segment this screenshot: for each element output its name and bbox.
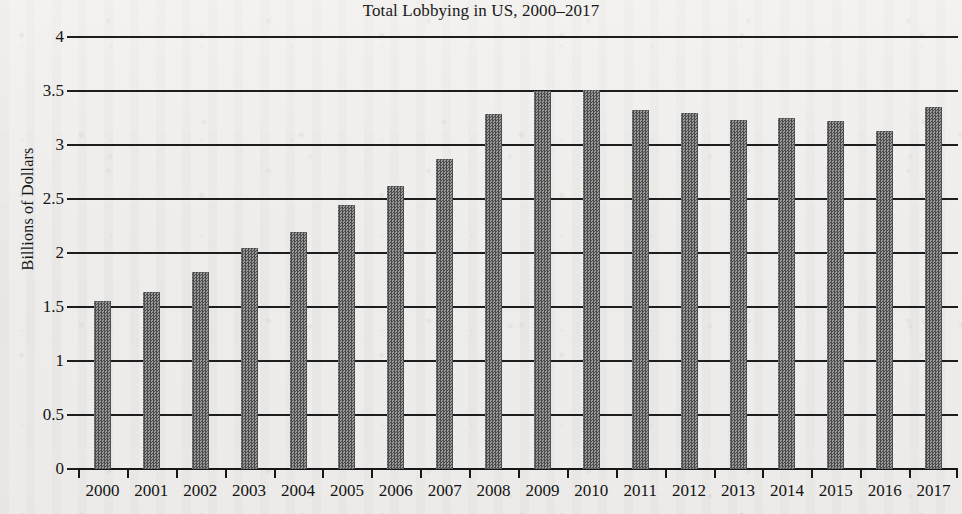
x-axis-tick xyxy=(225,469,227,478)
x-axis-label-2006: 2006 xyxy=(379,481,413,501)
x-axis-tick xyxy=(420,469,422,478)
x-axis-end-tick xyxy=(956,469,958,478)
x-axis-label-2001: 2001 xyxy=(134,481,168,501)
y-tick-mark xyxy=(67,414,78,416)
y-tick-mark xyxy=(67,360,78,362)
bar-2006 xyxy=(387,186,404,469)
plot-area: 43.532.521.510.50 2000200120022003200420… xyxy=(78,37,958,469)
x-axis-tick xyxy=(909,469,911,478)
bar-2007 xyxy=(436,159,453,469)
bar-2016 xyxy=(876,131,893,469)
x-axis-label-2009: 2009 xyxy=(525,481,559,501)
bar-2005 xyxy=(338,205,355,469)
gridline-3 xyxy=(78,144,958,146)
y-tick-mark xyxy=(67,36,78,38)
bar-2002 xyxy=(192,272,209,469)
y-axis-tick-label: 2.5 xyxy=(43,189,64,209)
bar-2000 xyxy=(94,301,111,469)
gridline-3.5 xyxy=(78,90,958,92)
chart-page: Total Lobbying in US, 2000–2017 Billions… xyxy=(0,0,962,514)
x-axis-label-2015: 2015 xyxy=(819,481,853,501)
x-axis-tick xyxy=(518,469,520,478)
bar-2008 xyxy=(485,114,502,469)
y-axis-tick-label: 0.5 xyxy=(43,405,64,425)
y-tick-mark xyxy=(67,144,78,146)
x-axis-tick xyxy=(127,469,129,478)
x-axis-label-2017: 2017 xyxy=(917,481,951,501)
chart-title: Total Lobbying in US, 2000–2017 xyxy=(0,1,962,21)
x-axis-label-2010: 2010 xyxy=(574,481,608,501)
x-axis-tick xyxy=(176,469,178,478)
gridline-1 xyxy=(78,360,958,362)
x-axis-tick xyxy=(860,469,862,478)
gridline-4 xyxy=(78,36,958,38)
bar-2011 xyxy=(632,110,649,469)
bar-2003 xyxy=(241,248,258,469)
x-axis-tick xyxy=(714,469,716,478)
bar-2001 xyxy=(143,292,160,469)
y-tick-mark xyxy=(67,468,78,470)
bar-2009 xyxy=(534,91,551,469)
y-tick-mark xyxy=(67,198,78,200)
x-axis-tick xyxy=(567,469,569,478)
x-axis-label-2000: 2000 xyxy=(85,481,119,501)
x-axis-label-2011: 2011 xyxy=(624,481,657,501)
x-axis-tick xyxy=(322,469,324,478)
gridline-0.5 xyxy=(78,414,958,416)
x-axis-label-2016: 2016 xyxy=(868,481,902,501)
x-axis-label-2013: 2013 xyxy=(721,481,755,501)
bar-2004 xyxy=(290,232,307,469)
x-axis-tick xyxy=(274,469,276,478)
x-axis-start-tick xyxy=(78,469,80,478)
x-axis-label-2012: 2012 xyxy=(672,481,706,501)
gridline-2.5 xyxy=(78,198,958,200)
bar-2015 xyxy=(827,121,844,469)
x-axis-tick xyxy=(811,469,813,478)
y-axis-tick-label: 4 xyxy=(56,27,65,47)
gridline-1.5 xyxy=(78,306,958,308)
y-axis-tick-label: 1.5 xyxy=(43,297,64,317)
x-axis-tick xyxy=(616,469,618,478)
x-axis-label-2003: 2003 xyxy=(232,481,266,501)
y-tick-mark xyxy=(67,306,78,308)
x-axis-label-2014: 2014 xyxy=(770,481,804,501)
x-axis-tick xyxy=(762,469,764,478)
y-axis-tick-label: 2 xyxy=(56,243,65,263)
y-axis-tick-label: 0 xyxy=(56,459,65,479)
y-axis-tick-label: 3.5 xyxy=(43,81,64,101)
x-axis-tick xyxy=(371,469,373,478)
bar-2017 xyxy=(925,107,942,469)
x-axis-label-2004: 2004 xyxy=(281,481,315,501)
y-axis-tick-label: 3 xyxy=(56,135,65,155)
bar-2012 xyxy=(681,113,698,469)
x-axis-tick xyxy=(665,469,667,478)
x-axis-tick xyxy=(469,469,471,478)
y-axis-tick-label: 1 xyxy=(56,351,65,371)
x-axis-label-2005: 2005 xyxy=(330,481,364,501)
bar-2013 xyxy=(730,120,747,469)
x-axis-label-2008: 2008 xyxy=(477,481,511,501)
bar-2014 xyxy=(778,118,795,469)
x-axis-label-2007: 2007 xyxy=(428,481,462,501)
y-tick-mark xyxy=(67,252,78,254)
bar-2010 xyxy=(583,90,600,469)
y-axis-title: Billions of Dollars xyxy=(19,119,37,299)
gridline-2 xyxy=(78,252,958,254)
y-tick-mark xyxy=(67,90,78,92)
x-axis-label-2002: 2002 xyxy=(183,481,217,501)
